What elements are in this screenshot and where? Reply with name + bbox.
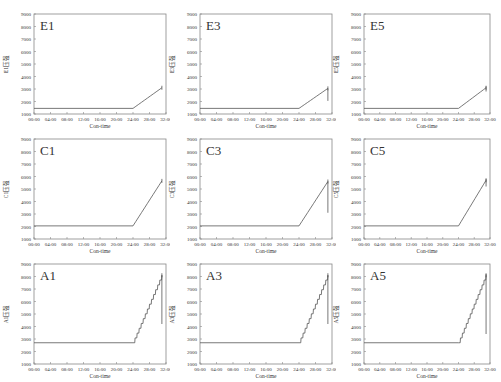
x-tick-label: 04:00 <box>374 117 386 122</box>
x-tick-label: 12:00 <box>78 367 90 372</box>
x-tick-label: 16:00 <box>260 367 272 372</box>
y-tick-label: 3000 <box>21 337 32 342</box>
x-tick-label: 04:00 <box>45 367 57 372</box>
y-axis-label: A1压强 <box>3 305 10 324</box>
x-tick-label: 12:00 <box>244 242 256 247</box>
y-tick-label: 9000 <box>21 12 32 17</box>
y-tick-label: 6000 <box>351 175 362 180</box>
y-tick-label: 9000 <box>21 262 32 267</box>
x-tick-label: 16:00 <box>421 367 433 372</box>
x-tick-label: 16:00 <box>421 117 433 122</box>
x-tick-label: 20:00 <box>437 117 449 122</box>
y-tick-label: 9000 <box>187 12 198 17</box>
x-tick-label: 28:00 <box>144 367 156 372</box>
y-tick-label: 8000 <box>187 275 198 280</box>
y-tick-label: 6000 <box>187 175 198 180</box>
y-axis-label: A5压强 <box>333 305 340 324</box>
y-tick-label: 4000 <box>21 325 32 330</box>
y-tick-label: 7000 <box>21 37 32 42</box>
x-axis-label: Con-time <box>417 373 438 378</box>
y-tick-label: 3000 <box>21 87 32 92</box>
panel-title: E5 <box>370 18 384 33</box>
y-tick-label: 6000 <box>351 300 362 305</box>
x-tick-label: 00:00 <box>194 367 206 372</box>
panel-title: A3 <box>206 268 222 283</box>
x-tick-label: 04:00 <box>374 367 386 372</box>
y-axis-label: E5压强 <box>333 55 340 73</box>
y-axis-label: E1压强 <box>3 55 10 73</box>
y-tick-label: 9000 <box>351 137 362 142</box>
y-tick-label: 2000 <box>351 100 362 105</box>
x-tick-label: 04:00 <box>374 242 386 247</box>
y-tick-label: 3000 <box>21 212 32 217</box>
panel-title: A5 <box>370 268 386 283</box>
x-tick-label: 20:00 <box>437 367 449 372</box>
y-tick-label: 3000 <box>187 337 198 342</box>
x-tick-label: 28:00 <box>310 117 322 122</box>
x-tick-label: 24:00 <box>293 367 305 372</box>
x-tick-label: 20:00 <box>437 242 449 247</box>
y-tick-label: 2000 <box>351 225 362 230</box>
x-tick-label: 08:00 <box>61 242 73 247</box>
x-tick-label: 04:00 <box>211 242 223 247</box>
x-tick-label: 04:00 <box>211 117 223 122</box>
y-tick-label: 5000 <box>351 187 362 192</box>
x-tick-label: 00:00 <box>194 242 206 247</box>
chart-grid: 10002000300040005000600070008000900000:0… <box>0 0 501 382</box>
x-tick-label: 00:00 <box>28 242 40 247</box>
y-tick-label: 4000 <box>21 200 32 205</box>
x-tick-label: 24:00 <box>453 367 465 372</box>
x-tick-label: 16:00 <box>94 117 106 122</box>
y-tick-label: 4000 <box>187 200 198 205</box>
y-tick-label: 4000 <box>21 75 32 80</box>
panel-title: C1 <box>40 143 55 158</box>
y-tick-label: 2000 <box>21 350 32 355</box>
x-tick-label: 16:00 <box>260 242 272 247</box>
chart-panel-e5: 10002000300040005000600070008000900000:0… <box>330 2 500 128</box>
y-axis-label: C5压强 <box>333 180 340 198</box>
y-tick-label: 5000 <box>187 62 198 67</box>
y-tick-label: 3000 <box>351 87 362 92</box>
y-tick-label: 4000 <box>187 325 198 330</box>
x-tick-label: 20:00 <box>277 367 289 372</box>
y-tick-label: 2000 <box>21 100 32 105</box>
x-tick-label: 20:00 <box>111 117 123 122</box>
x-tick-label: 28:00 <box>469 242 481 247</box>
x-tick-label: 04:00 <box>45 117 57 122</box>
y-tick-label: 7000 <box>187 162 198 167</box>
x-tick-label: 24:00 <box>127 242 139 247</box>
x-tick-label: 24:00 <box>127 117 139 122</box>
x-tick-label: 12:00 <box>244 367 256 372</box>
y-tick-label: 7000 <box>187 37 198 42</box>
x-tick-label: 28:00 <box>310 242 322 247</box>
y-tick-label: 2000 <box>187 225 198 230</box>
chart-panel-a1: 10002000300040005000600070008000900000:0… <box>0 252 170 378</box>
y-tick-label: 5000 <box>21 312 32 317</box>
chart-panel-a3: 10002000300040005000600070008000900000:0… <box>166 252 336 378</box>
y-tick-label: 7000 <box>21 162 32 167</box>
chart-panel-c5: 10002000300040005000600070008000900000:0… <box>330 127 500 253</box>
y-tick-label: 9000 <box>187 137 198 142</box>
y-tick-label: 6000 <box>21 175 32 180</box>
y-axis-label: C1压强 <box>3 180 10 198</box>
y-axis-label: E3压强 <box>169 55 176 73</box>
x-tick-label: 00:00 <box>358 117 370 122</box>
x-tick-label: 08:00 <box>390 117 402 122</box>
y-tick-label: 7000 <box>351 37 362 42</box>
x-tick-label: 20:00 <box>277 242 289 247</box>
y-tick-label: 4000 <box>351 200 362 205</box>
y-tick-label: 2000 <box>187 100 198 105</box>
y-tick-label: 4000 <box>351 75 362 80</box>
x-tick-label: 12:00 <box>78 117 90 122</box>
x-tick-label: 24:00 <box>293 117 305 122</box>
x-tick-label: 12:00 <box>406 117 418 122</box>
x-tick-label: 20:00 <box>277 117 289 122</box>
y-tick-label: 5000 <box>187 312 198 317</box>
x-tick-label: 12:00 <box>78 242 90 247</box>
x-tick-label: 28:00 <box>310 367 322 372</box>
x-tick-label: 16:00 <box>94 367 106 372</box>
panel-title: A1 <box>40 268 56 283</box>
y-tick-label: 8000 <box>351 275 362 280</box>
y-tick-label: 2000 <box>187 350 198 355</box>
x-tick-label: 08:00 <box>390 367 402 372</box>
